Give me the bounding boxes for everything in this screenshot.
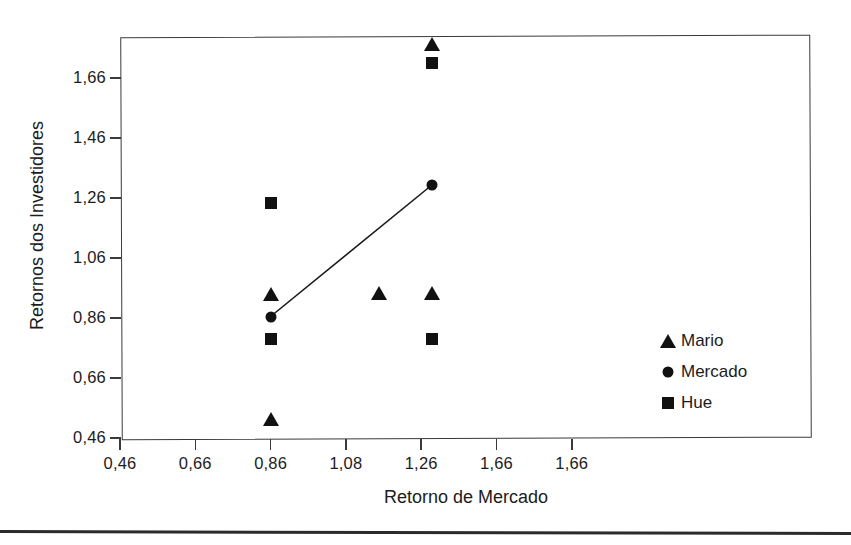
data-point-mercado-0 (265, 311, 276, 322)
y-axis-tick-label-6: 1,66 (46, 68, 106, 87)
legend-item-hue[interactable]: Hue (655, 387, 795, 418)
data-point-mario-0 (263, 412, 279, 426)
x-axis-tick-label-4: 1,26 (381, 454, 461, 473)
y-axis-tick-label-4: 1,26 (46, 188, 106, 207)
y-axis-tick-label-1: 0,66 (46, 368, 106, 387)
y-axis-tick-label-5: 1,46 (46, 128, 106, 147)
chart-legend: MarioMercadoHue (655, 325, 795, 418)
y-axis-tick-label-3: 1,06 (46, 248, 106, 267)
x-axis-tick-label-0: 0,46 (80, 454, 160, 473)
x-axis-tick-0 (119, 439, 121, 450)
x-axis-tick-4 (420, 439, 422, 450)
y-axis-tick-4 (110, 197, 121, 199)
scatter-chart-figure: 0,460,660,861,061,261,461,66 0,460,660,8… (0, 0, 851, 545)
footer-divider (0, 530, 851, 535)
legend-label-mario: Mario (681, 331, 724, 351)
data-point-hue-0 (265, 333, 277, 345)
x-axis-tick-2 (270, 439, 272, 450)
legend-circle-icon (655, 362, 681, 382)
x-axis-tick-1 (195, 439, 197, 450)
x-axis-tick-label-1: 0,66 (155, 454, 235, 473)
data-point-hue-3 (426, 57, 438, 69)
y-axis-title: Retornos dos Investidores (27, 46, 48, 406)
x-axis-tick-6 (571, 439, 573, 450)
legend-label-mercado: Mercado (681, 362, 747, 382)
y-axis-tick-5 (110, 137, 121, 139)
legend-square-icon (655, 393, 681, 413)
x-axis-tick-label-2: 0,86 (231, 454, 311, 473)
y-axis-tick-2 (110, 317, 121, 319)
data-point-mario-4 (424, 37, 440, 51)
x-axis-tick-label-6: 1,66 (532, 454, 612, 473)
trend-line-segment (271, 185, 433, 317)
x-axis-tick-label-5: 1,66 (457, 454, 537, 473)
data-point-mario-3 (424, 286, 440, 300)
y-axis-tick-1 (110, 377, 121, 379)
legend-item-mercado[interactable]: Mercado (655, 356, 795, 387)
legend-item-mario[interactable]: Mario (655, 325, 795, 356)
x-axis-tick-5 (496, 439, 498, 450)
x-axis-tick-3 (345, 439, 347, 450)
y-axis-tick-3 (110, 257, 121, 259)
y-axis-tick-6 (110, 77, 121, 79)
y-axis-tick-label-0: 0,46 (46, 428, 106, 447)
legend-label-hue: Hue (681, 393, 712, 413)
data-point-mercado-1 (427, 179, 438, 190)
data-point-hue-2 (426, 333, 438, 345)
data-point-mario-1 (263, 287, 279, 301)
data-point-hue-1 (265, 197, 277, 209)
legend-triangle-icon (655, 331, 681, 351)
x-axis-tick-label-3: 1,08 (306, 454, 386, 473)
data-point-mario-2 (371, 286, 387, 300)
y-axis-tick-label-2: 0,86 (46, 308, 106, 327)
x-axis-title: Retorno de Mercado (121, 487, 811, 508)
